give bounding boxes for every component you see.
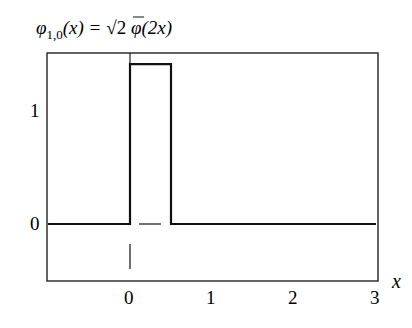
chart-title: φ1,0(x) = √2 φ(2x): [36, 17, 172, 42]
x-tick-label-1: 1: [206, 287, 216, 308]
series-line: [48, 64, 376, 224]
plot-frame: [47, 53, 378, 281]
x-axis-label: x: [391, 270, 401, 292]
chart: φ1,0(x) = √2 φ(2x) 1 0 0 1 2 3 x: [0, 0, 412, 328]
x-tick-label-0: 0: [124, 287, 134, 308]
y-tick-label-1: 1: [30, 100, 40, 121]
series-polyline: [48, 64, 376, 224]
x-tick-label-3: 3: [370, 287, 380, 308]
y-tick-label-0: 0: [30, 213, 40, 234]
x-tick-label-2: 2: [288, 287, 298, 308]
